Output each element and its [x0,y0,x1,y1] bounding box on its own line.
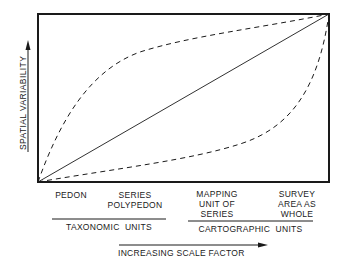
x-axis-label: INCREASING SCALE FACTOR [118,248,268,258]
category-survey-area: SURVEY AREA AS WHOLE [264,189,330,219]
group-cartographic-units: CARTOGRAPHIC UNITS [188,224,313,234]
x-axis-arrow-head [258,243,268,248]
mean-solid-line [38,14,329,182]
group-taxonomic-units: TAXONOMIC UNITS [52,222,166,232]
y-axis-label: SPATIAL VARIABILITY [18,56,28,150]
category-mapping-unit: MAPPING UNIT OF SERIES [184,189,250,219]
category-series-polypedon: SERIES POLYPEDON [100,190,170,210]
y-axis-arrow-head [26,40,31,50]
category-pedon: PEDON [48,190,94,200]
